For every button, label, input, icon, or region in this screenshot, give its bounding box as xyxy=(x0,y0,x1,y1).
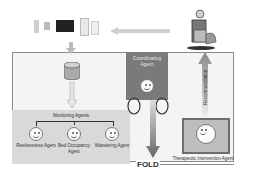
therapeutic-agent-label: Therapeutic intervention Agent xyxy=(168,156,238,162)
sensor-device-icon xyxy=(56,20,74,32)
sensor-device-icon xyxy=(44,22,50,30)
fold-arrow-icon xyxy=(146,100,160,158)
smiley-agent-icon xyxy=(196,124,216,144)
fold-label: FOLD xyxy=(136,160,160,169)
arrow-down-icon xyxy=(67,82,77,108)
monitoring-agents-label: Monitoring Agents xyxy=(12,113,130,118)
smiley-agent-icon xyxy=(140,79,154,93)
bed-occupancy-agent-label: Bed Occupancy Agent xyxy=(54,143,94,154)
smiley-agent-icon xyxy=(105,127,119,141)
arrow-down-icon xyxy=(66,42,76,54)
restlessness-agent-label: Restlessness Agent xyxy=(16,143,56,149)
fold-line xyxy=(160,164,234,165)
smiley-agent-icon xyxy=(29,127,43,141)
connector-line xyxy=(74,121,75,125)
elderly-person-in-chair-icon xyxy=(186,4,226,54)
connector-bracket xyxy=(36,121,114,126)
arrow-left-icon xyxy=(110,27,170,35)
recommendation-label: Recommendation xyxy=(203,60,208,115)
sensor-device-icon xyxy=(91,21,99,35)
smiley-agent-icon xyxy=(67,127,81,141)
database-icon xyxy=(64,62,80,80)
coordinating-agent-label: Coordinating Agent xyxy=(126,55,168,67)
sensor-device-icon xyxy=(80,18,89,36)
wandering-agent-label: Wandering Agent xyxy=(92,143,132,149)
sensor-devices xyxy=(34,18,104,36)
sensor-device-icon xyxy=(34,20,39,33)
